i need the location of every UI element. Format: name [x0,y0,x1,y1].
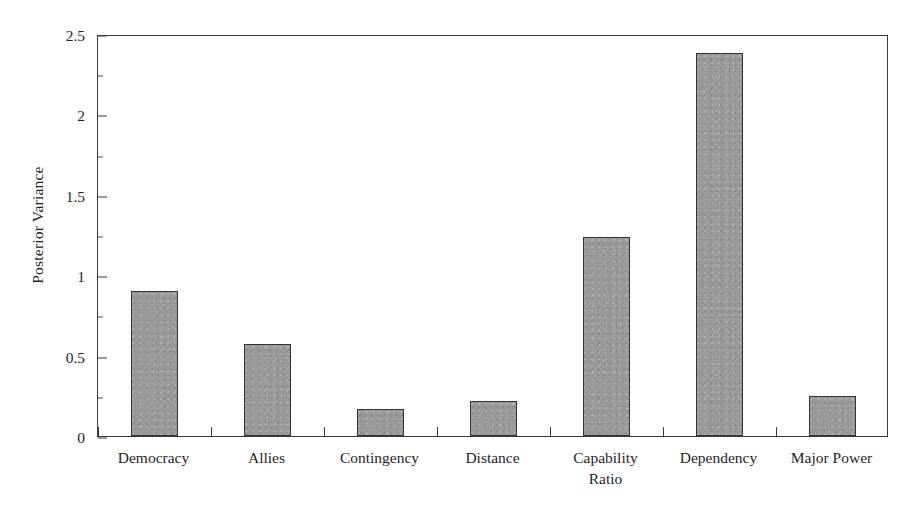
y-tick-mark [98,196,107,197]
x-tick-mark [324,427,325,436]
x-axis-category-label: Distance [436,447,549,468]
x-axis-labels: DemocracyAlliesContingencyDistanceCapabi… [97,447,888,517]
y-minor-tick-mark [98,156,103,157]
x-tick-mark [887,427,888,436]
y-tick-label: 2 [77,107,98,125]
x-tick-mark [437,427,438,436]
bar [696,53,743,436]
y-tick-label: 0.5 [66,349,98,367]
x-axis-category-label-line1: Major Power [775,447,888,468]
y-tick-mark [98,36,107,37]
bar [809,396,856,436]
y-tick-label: 0 [77,429,98,447]
x-axis-category-label-line1: Capability [549,447,662,468]
plot-area: 00.511.522.5 [97,35,888,437]
x-axis-category-label: Major Power [775,447,888,468]
y-tick-label: 1.5 [66,188,98,206]
y-minor-tick-mark [98,237,103,238]
bar-chart-figure: Posterior Variance 00.511.522.5 Democrac… [0,0,919,524]
x-axis-category-label-line1: Dependency [662,447,775,468]
y-minor-tick-mark [98,317,103,318]
y-minor-tick-mark [98,397,103,398]
y-minor-tick-mark [98,76,103,77]
y-axis-title: Posterior Variance [29,115,47,335]
y-tick-mark [98,277,107,278]
x-axis-category-label-line2: Ratio [549,468,662,489]
x-axis-category-label: Democracy [97,447,210,468]
bar [131,291,178,436]
x-axis-category-label: CapabilityRatio [549,447,662,489]
y-tick-mark [98,116,107,117]
x-tick-mark [211,427,212,436]
y-tick-mark [98,357,107,358]
x-axis-category-label-line1: Democracy [97,447,210,468]
x-tick-mark [776,427,777,436]
x-axis-category-label-line1: Distance [436,447,549,468]
x-tick-mark [663,427,664,436]
y-tick-mark [98,438,107,439]
bar [244,344,291,436]
bar [583,237,630,436]
x-tick-mark [98,427,99,436]
x-axis-category-label: Contingency [323,447,436,468]
y-tick-label: 1 [77,268,98,286]
x-axis-category-label: Allies [210,447,323,468]
bars-layer [98,36,887,436]
bar [357,409,404,436]
bar [470,401,517,436]
x-axis-category-label-line1: Allies [210,447,323,468]
x-axis-category-label-line1: Contingency [323,447,436,468]
y-tick-label: 2.5 [66,27,98,45]
x-tick-mark [550,427,551,436]
x-axis-category-label: Dependency [662,447,775,468]
